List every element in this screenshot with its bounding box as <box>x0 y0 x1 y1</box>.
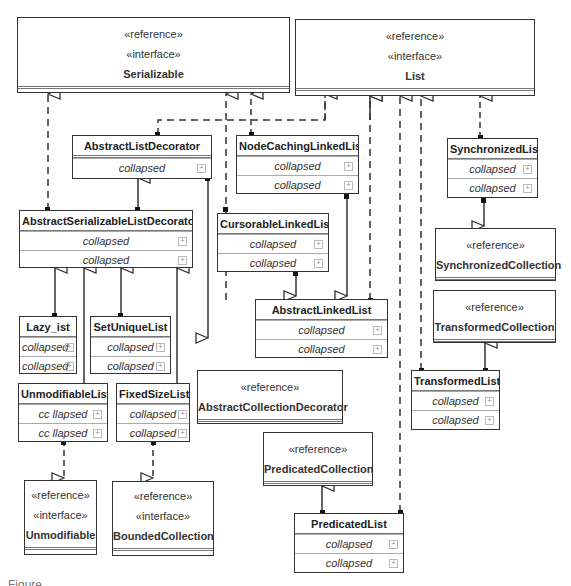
class-abstract-linked-list[interactable]: AbstractLinkedList collapsed+ collapsed+ <box>255 299 388 358</box>
expand-icon[interactable]: + <box>65 343 74 352</box>
compartment-collapsed[interactable]: collapsed+ <box>412 391 499 410</box>
compartment-collapsed[interactable]: collapsed+ <box>117 423 189 442</box>
expand-icon[interactable]: + <box>389 540 398 549</box>
compartment-collapsed[interactable]: collapsed+ <box>20 250 192 269</box>
interface-unmodifiable[interactable]: «reference» «interface» Unmodifiable <box>24 480 97 555</box>
compartment-collapsed[interactable]: collapsed+ <box>448 159 537 178</box>
class-synchronized-list[interactable]: SynchronizedList collapsed+ collapsed+ <box>447 138 538 198</box>
class-set-unique-list[interactable]: SetUniqueList collapsed+ collapsed+ <box>90 316 171 374</box>
expand-icon[interactable]: + <box>373 345 382 354</box>
class-name: FixedSizeList <box>117 384 189 404</box>
compartment-label: cc llapsed <box>39 408 88 420</box>
compartment-collapsed[interactable]: collapsed+ <box>20 337 76 356</box>
compartment-collapsed[interactable]: collapsed+ <box>218 234 328 253</box>
expand-icon[interactable]: + <box>523 165 532 174</box>
expand-icon[interactable]: + <box>314 259 323 268</box>
compartment-collapsed[interactable]: cc llapsed+ <box>19 404 107 423</box>
expand-icon[interactable]: + <box>178 429 187 438</box>
compartment-label: collapsed <box>326 557 372 569</box>
compartment-collapsed[interactable]: collapsed+ <box>73 158 211 177</box>
uml-diagram-canvas: «reference» «interface» Serializable «re… <box>0 0 571 586</box>
compartment-divider <box>264 481 372 484</box>
compartment-label: collapsed <box>298 343 344 355</box>
expand-icon[interactable]: + <box>178 410 187 419</box>
expand-icon[interactable]: + <box>485 416 494 425</box>
class-name: List <box>296 70 534 86</box>
compartment-collapsed[interactable]: collapsed+ <box>20 231 192 250</box>
class-abstract-serializable-list-decorator[interactable]: AbstractSerializableListDecorator collap… <box>19 210 193 268</box>
expand-icon[interactable]: + <box>314 240 323 249</box>
expand-icon[interactable]: + <box>178 256 187 265</box>
compartment-collapsed[interactable]: collapsed+ <box>295 534 403 553</box>
compartment-collapsed[interactable]: collapsed+ <box>117 404 189 423</box>
expand-icon[interactable]: + <box>344 181 353 190</box>
reference-abstract-collection-decorator[interactable]: «reference» AbstractCollectionDecorator <box>197 370 343 424</box>
expand-icon[interactable]: + <box>178 237 187 246</box>
class-cursorable-linked-list[interactable]: CursorableLinkedList collapsed+ collapse… <box>217 213 329 272</box>
expand-icon[interactable]: + <box>156 362 165 371</box>
class-abstract-list-decorator[interactable]: AbstractListDecorator collapsed+ <box>72 135 212 179</box>
expand-icon[interactable]: + <box>373 326 382 335</box>
compartment-label: collapsed <box>432 395 478 407</box>
compartment-collapsed[interactable]: collapsed+ <box>448 178 537 197</box>
compartment-collapsed[interactable]: collapsed+ <box>412 410 499 429</box>
compartment-collapsed[interactable]: collapsed+ <box>256 320 387 339</box>
compartment-label: collapsed <box>432 414 478 426</box>
expand-icon[interactable]: + <box>93 429 102 438</box>
compartment-collapsed[interactable]: collapsed+ <box>218 253 328 272</box>
compartment-collapsed[interactable]: collapsed+ <box>237 175 358 194</box>
stereotype-reference: «reference» <box>434 301 555 313</box>
expand-icon[interactable]: + <box>485 397 494 406</box>
compartment-collapsed[interactable]: collapsed+ <box>237 156 358 175</box>
class-predicated-list[interactable]: PredicatedList collapsed+ collapsed+ <box>294 513 404 573</box>
compartment-collapsed[interactable]: collapsed+ <box>91 337 170 356</box>
class-lazy-list[interactable]: Lazy_ist collapsed+ collapsed+ <box>19 316 77 374</box>
compartment-label: collapsed <box>274 160 320 172</box>
compartment-label: collapsed <box>107 360 153 372</box>
stereotype-reference: «reference» <box>198 381 342 393</box>
stereotype-reference: «reference» <box>264 443 372 455</box>
expand-icon[interactable]: + <box>93 410 102 419</box>
class-name: BoundedCollection <box>113 530 213 546</box>
class-name: PredicatedList <box>295 514 403 534</box>
interface-serializable[interactable]: «reference» «interface» Serializable <box>17 17 290 93</box>
figure-caption: Figure ... <box>8 578 55 586</box>
expand-icon[interactable]: + <box>197 164 206 173</box>
class-transformed-list[interactable]: TransformedList collapsed+ collapsed+ <box>411 370 500 430</box>
expand-icon[interactable]: + <box>344 162 353 171</box>
class-node-caching-linked-list[interactable]: NodeCachingLinkedList collapsed+ collaps… <box>236 135 359 194</box>
compartment-label: collapsed <box>250 257 296 269</box>
compartment-divider <box>198 419 342 422</box>
stereotype-interface: «interface» <box>18 48 289 60</box>
compartment-collapsed[interactable]: collapsed+ <box>20 356 76 375</box>
stereotype-reference: «reference» <box>296 30 534 42</box>
compartment-divider <box>113 548 213 551</box>
stereotype-interface: «interface» <box>113 510 213 522</box>
compartment-collapsed[interactable]: collapsed+ <box>256 339 387 358</box>
class-name: SetUniqueList <box>91 317 170 337</box>
compartment-label: collapsed <box>250 238 296 250</box>
reference-predicated-collection[interactable]: «reference» PredicatedCollection <box>263 432 373 486</box>
expand-icon[interactable]: + <box>523 184 532 193</box>
expand-icon[interactable]: + <box>389 559 398 568</box>
reference-transformed-collection[interactable]: «reference» TransformedCollection <box>433 290 556 343</box>
expand-icon[interactable]: + <box>156 343 165 352</box>
compartment-collapsed[interactable]: collapsed+ <box>295 553 403 572</box>
reference-synchronized-collection[interactable]: «reference» SynchronizedCollection <box>435 228 556 281</box>
compartment-collapsed[interactable]: collapsed+ <box>91 356 170 375</box>
class-name: AbstractSerializableListDecorator <box>20 211 192 231</box>
compartment-collapsed[interactable]: cc llapsed+ <box>19 423 107 442</box>
compartment-label: collapsed <box>469 182 515 194</box>
interface-list[interactable]: «reference» «interface» List <box>295 19 535 96</box>
class-unmodifiable-list[interactable]: UnmodifiableList cc llapsed+ cc llapsed+ <box>18 383 108 442</box>
class-name: PredicatedCollection <box>264 463 372 479</box>
compartment-divider <box>18 86 289 89</box>
class-fixed-size-list[interactable]: FixedSizeList collapsed+ collapsed+ <box>116 383 190 442</box>
compartment-label: collapsed <box>130 408 176 420</box>
stereotype-interface: «interface» <box>25 509 96 521</box>
compartment-label: collapsed <box>469 163 515 175</box>
expand-icon[interactable]: + <box>65 362 74 371</box>
compartment-label: collapsed <box>119 162 165 174</box>
stereotype-reference: «reference» <box>18 28 289 40</box>
interface-bounded-collection[interactable]: «reference» «interface» BoundedCollectio… <box>112 481 214 556</box>
